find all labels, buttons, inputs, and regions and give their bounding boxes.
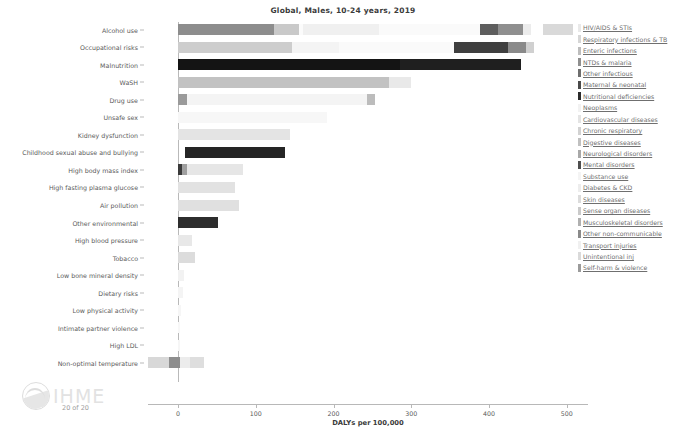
bar-row[interactable] [148,340,588,351]
bar-segment[interactable] [178,287,183,298]
legend-label[interactable]: Musculoskeletal disorders [583,218,663,227]
bar-segment[interactable] [523,24,531,35]
bar-segment[interactable] [178,322,180,333]
legend-item[interactable]: Mental disorders [578,159,684,170]
bar-row[interactable] [148,59,588,70]
bar-row[interactable] [148,77,588,88]
legend-item[interactable]: Digestive diseases [578,136,684,147]
bar-segment[interactable] [178,24,274,35]
legend-item[interactable]: Respiratory infections & TB [578,33,684,44]
bar-segment[interactable] [180,357,191,368]
legend-item[interactable]: Neurological disorders [578,148,684,159]
legend-item[interactable]: Cardiovascular diseases [578,114,684,125]
legend-label[interactable]: Respiratory infections & TB [583,35,667,44]
legend-label[interactable]: Other non-communicable [583,229,662,238]
bar-row[interactable] [148,305,588,316]
bar-segment[interactable] [178,182,235,193]
legend-label[interactable]: Maternal & neonatal [583,80,646,89]
legend-item[interactable]: Unintentional inj [578,251,684,262]
bar-segment[interactable] [480,24,498,35]
bar-row[interactable] [148,235,588,246]
legend-item[interactable]: Self-harm & violence [578,262,684,273]
bar-segment[interactable] [178,200,239,211]
legend-item[interactable]: NTDs & malaria [578,56,684,67]
bar-segment[interactable] [367,94,375,105]
bar-row[interactable] [148,24,588,35]
legend-item[interactable]: Chronic respiratory [578,125,684,136]
legend-label[interactable]: HIV/AIDS & STIs [583,23,632,32]
bar-row[interactable] [148,112,588,123]
bar-segment[interactable] [178,77,389,88]
bar-segment[interactable] [339,42,454,53]
legend-label[interactable]: Unintentional inj [583,252,634,261]
bar-row[interactable] [148,94,588,105]
bar-segment[interactable] [190,357,204,368]
legend-item[interactable]: Maternal & neonatal [578,79,684,90]
legend-item[interactable]: Sense organ diseases [578,205,684,216]
bar-row[interactable] [148,182,588,193]
legend-item[interactable]: Musculoskeletal disorders [578,216,684,227]
legend-item[interactable]: Diabetes & CKD [578,182,684,193]
legend-label[interactable]: Neurological disorders [583,149,652,158]
bar-row[interactable] [148,322,588,333]
bar-row[interactable] [148,270,588,281]
bar-segment[interactable] [389,77,411,88]
bar-row[interactable] [148,42,588,53]
bar-segment[interactable] [178,42,292,53]
bar-segment[interactable] [178,305,181,316]
bar-segment[interactable] [178,129,290,140]
bar-segment[interactable] [508,42,525,53]
legend-item[interactable]: Skin diseases [578,194,684,205]
legend-label[interactable]: Enteric infections [583,46,637,55]
legend-label[interactable]: NTDs & malaria [583,58,632,67]
legend-label[interactable]: Chronic respiratory [583,126,642,135]
bar-segment[interactable] [169,357,180,368]
bar-row[interactable] [148,164,588,175]
bar-segment[interactable] [178,59,400,70]
bar-segment[interactable] [178,252,195,263]
bar-segment[interactable] [178,217,218,228]
legend-label[interactable]: Neoplasms [583,103,617,112]
bar-segment[interactable] [178,235,192,246]
legend-item[interactable]: HIV/AIDS & STIs [578,22,684,33]
legend-label[interactable]: Digestive diseases [583,138,641,147]
bar-segment[interactable] [274,24,299,35]
bar-segment[interactable] [178,340,180,351]
bar-segment[interactable] [454,42,508,53]
bar-row[interactable] [148,147,588,158]
bar-row[interactable] [148,200,588,211]
bar-segment[interactable] [187,164,243,175]
bar-segment[interactable] [187,94,367,105]
legend-label[interactable]: Substance use [583,172,628,181]
legend-item[interactable]: Other non-communicable [578,228,684,239]
bar-segment[interactable] [526,42,535,53]
bar-segment[interactable] [303,24,378,35]
bar-segment[interactable] [543,24,573,35]
legend-label[interactable]: Self-harm & violence [583,263,647,272]
legend-label[interactable]: Nutritional deficiencies [583,92,654,101]
bar-row[interactable] [148,129,588,140]
bar-segment[interactable] [400,59,521,70]
bar-row[interactable] [148,217,588,228]
bar-segment[interactable] [178,112,327,123]
bar-segment[interactable] [178,94,187,105]
bar-row[interactable] [148,252,588,263]
bar-segment[interactable] [292,42,339,53]
legend-item[interactable]: Substance use [578,171,684,182]
legend-item[interactable]: Neoplasms [578,102,684,113]
legend-label[interactable]: Skin diseases [583,195,625,204]
bar-segment[interactable] [185,147,285,158]
legend-label[interactable]: Transport injuries [583,241,637,250]
bar-segment[interactable] [148,357,168,368]
legend-item[interactable]: Enteric infections [578,45,684,56]
bar-segment[interactable] [379,24,480,35]
bar-segment[interactable] [498,24,524,35]
bar-row[interactable] [148,287,588,298]
legend-item[interactable]: Nutritional deficiencies [578,91,684,102]
bar-segment[interactable] [178,270,184,281]
legend-item[interactable]: Transport injuries [578,239,684,250]
legend-label[interactable]: Mental disorders [583,160,635,169]
bar-row[interactable] [148,357,588,368]
legend-item[interactable]: Other infectious [578,68,684,79]
legend-label[interactable]: Cardiovascular diseases [583,115,658,124]
